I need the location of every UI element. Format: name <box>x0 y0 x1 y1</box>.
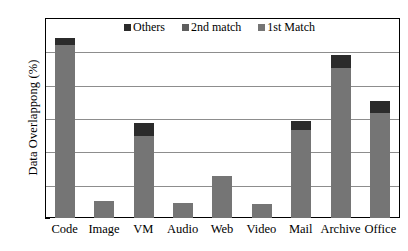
x-axis-tick-label: Office <box>361 222 400 237</box>
y-axis-title: Data Overlappong (%) <box>26 23 41 213</box>
legend-entry: Others <box>124 20 165 35</box>
legend-entry: 1st Match <box>258 20 315 35</box>
gridline <box>46 119 399 120</box>
gridline <box>46 186 399 187</box>
legend-label: 1st Match <box>267 20 315 35</box>
gridline <box>46 152 399 153</box>
legend-entry: 2nd match <box>182 20 241 35</box>
chart-legend: Others2nd match1st Match <box>124 20 315 35</box>
x-axis-tick-label: Mail <box>281 222 320 237</box>
legend-swatch-icon <box>124 24 131 31</box>
legend-swatch-icon <box>258 24 265 31</box>
gridline <box>46 86 399 87</box>
legend-swatch-icon <box>182 24 189 31</box>
y-axis-tick-mark <box>45 218 50 219</box>
gridline <box>46 52 399 53</box>
chart-figure: Data Overlappong (%) 1.210.80.60.40.20 C… <box>0 0 408 251</box>
x-axis-tick-labels: CodeImageVMAudioWebVideoMailArchiveOffic… <box>45 222 400 237</box>
x-axis-tick-label: Archive <box>320 222 360 237</box>
x-axis-tick-label: VM <box>124 222 163 237</box>
plot-area <box>45 18 400 218</box>
x-axis-tick-label: Audio <box>163 222 202 237</box>
legend-label: Others <box>133 20 165 35</box>
x-axis-tick-label: Web <box>202 222 241 237</box>
x-axis-tick-label: Image <box>84 222 123 237</box>
x-axis-tick-label: Video <box>242 222 281 237</box>
legend-label: 2nd match <box>191 20 241 35</box>
x-axis-tick-label: Code <box>45 222 84 237</box>
